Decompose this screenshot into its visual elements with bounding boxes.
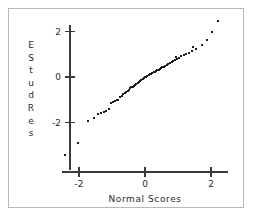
data-point [201,44,203,46]
y-tick-label: 2 [55,27,61,37]
data-point [175,56,177,58]
x-tick-label: -2 [75,179,84,189]
qq-plot-figure: -202-202Normal ScoresEStudRes [0,0,256,224]
data-points-group [64,20,218,156]
data-point [105,110,107,112]
x-tick-label: 2 [208,179,214,189]
data-point [176,58,178,60]
y-axis-title-char: t [29,65,33,75]
y-axis-title-char: d [28,90,34,100]
data-point [217,20,219,22]
data-point [183,54,185,56]
axes-group [62,25,228,177]
x-axis-title: Normal Scores [108,194,181,204]
data-point [206,39,208,41]
y-axis-title-char: e [28,116,34,126]
data-point [192,46,194,48]
plot-canvas: -202-202Normal ScoresEStudRes [0,0,256,224]
data-point [77,142,79,144]
data-point [178,57,180,59]
data-point [64,154,66,156]
data-point [93,117,95,119]
data-point [180,55,182,57]
data-point [191,50,193,52]
data-point [108,108,110,110]
y-axis-title-char: E [28,40,34,50]
data-point [188,52,190,54]
y-axis-title-char: S [28,53,34,63]
data-point [185,53,187,55]
data-point [100,112,102,114]
y-axis-title-char: R [28,103,34,113]
data-point [103,111,105,113]
data-point [117,99,119,101]
y-tick-label: -2 [52,118,61,128]
y-tick-label: 0 [55,72,61,82]
data-point [112,101,114,103]
data-point [97,113,99,115]
y-axis-title-char: s [29,128,34,138]
data-point [87,120,89,122]
x-tick-label: 0 [142,179,148,189]
data-point [211,31,213,33]
y-axis-title-char: u [28,78,34,88]
data-point [195,48,197,50]
data-point [110,102,112,104]
data-point [174,59,176,61]
